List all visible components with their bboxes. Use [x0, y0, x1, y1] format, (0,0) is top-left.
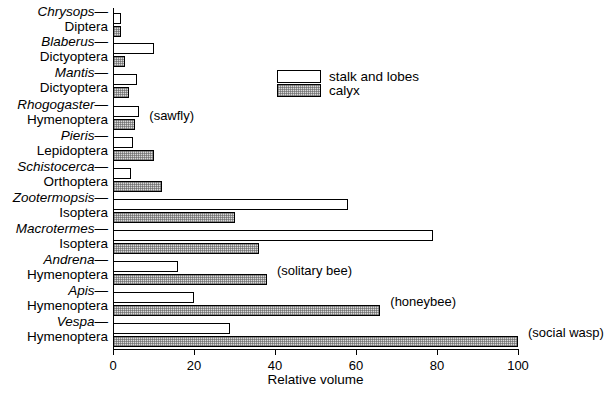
x-axis-tick-label: 80	[430, 358, 444, 373]
category-label: Vespa—Hymenoptera	[0, 314, 108, 344]
bar-stalk	[113, 137, 133, 148]
category-genus: Zootermopsis—	[13, 190, 108, 205]
category-order: Diptera	[0, 19, 108, 34]
bar-calyx	[113, 336, 518, 347]
annotation-label: (solitary bee)	[277, 263, 352, 278]
legend-label-calyx: calyx	[329, 83, 360, 98]
bar-calyx	[113, 243, 259, 254]
bar-calyx	[113, 274, 267, 285]
category-label: Macrotermes—Isoptera	[0, 221, 108, 251]
category-label: Chrysops—Diptera	[0, 4, 108, 34]
x-axis-tick-label: 60	[349, 358, 363, 373]
x-axis-tick-label: 20	[187, 358, 201, 373]
category-order: Lepidoptera	[0, 143, 108, 158]
legend-swatch-calyx-icon	[277, 84, 321, 97]
category-genus: Pieris—	[61, 128, 108, 143]
x-axis-tick	[275, 349, 276, 355]
bar-calyx	[113, 305, 380, 316]
bar-calyx	[113, 87, 129, 98]
bar-stalk	[113, 199, 348, 210]
bar-stalk	[113, 74, 137, 85]
category-order: Hymenoptera	[0, 329, 108, 344]
plot-area: 020406080100	[113, 8, 518, 348]
category-label: Andrena—Hymenoptera	[0, 252, 108, 282]
category-label: Blaberus—Dictyoptera	[0, 34, 108, 64]
bar-calyx	[113, 181, 162, 192]
category-genus: Andrena—	[43, 252, 108, 267]
legend-swatch-stalk-icon	[277, 70, 321, 83]
bar-stalk	[113, 261, 178, 272]
category-order: Dictyoptera	[0, 49, 108, 64]
category-genus: Vespa—	[57, 314, 108, 329]
bar-calyx	[113, 56, 125, 67]
bar-calyx	[113, 212, 235, 223]
x-axis-line	[113, 349, 519, 350]
category-order: Dictyoptera	[0, 80, 108, 95]
category-label: Rhogogaster—Hymenoptera	[0, 97, 108, 127]
x-axis-tick-label: 100	[507, 358, 529, 373]
category-order: Isoptera	[0, 205, 108, 220]
legend-label-stalk: stalk and lobes	[329, 69, 419, 84]
x-axis-tick	[437, 349, 438, 355]
x-axis-tick-label: 0	[109, 358, 116, 373]
bar-stalk	[113, 168, 131, 179]
category-genus: Chrysops—	[37, 4, 108, 19]
x-axis-tick	[113, 349, 114, 355]
bar-calyx	[113, 119, 135, 130]
category-genus: Apis—	[68, 283, 108, 298]
bar-stalk	[113, 323, 230, 334]
category-genus: Rhogogaster—	[17, 97, 108, 112]
category-label: Apis—Hymenoptera	[0, 283, 108, 313]
annotation-label: (sawfly)	[149, 108, 194, 123]
category-order: Isoptera	[0, 236, 108, 251]
category-order: Hymenoptera	[0, 298, 108, 313]
category-label: Schistocerca—Orthoptera	[0, 159, 108, 189]
x-axis-tick-label: 40	[268, 358, 282, 373]
category-genus: Macrotermes—	[16, 221, 108, 236]
annotation-label: (social wasp)	[528, 325, 604, 340]
category-label: Mantis—Dictyoptera	[0, 65, 108, 95]
bar-stalk	[113, 13, 121, 24]
bar-calyx	[113, 26, 121, 37]
category-genus: Schistocerca—	[17, 159, 108, 174]
x-axis-tick	[356, 349, 357, 355]
x-axis-title: Relative volume	[113, 372, 518, 387]
category-genus: Mantis—	[55, 65, 108, 80]
bar-stalk	[113, 292, 194, 303]
category-label: Pieris—Lepidoptera	[0, 128, 108, 158]
category-order: Hymenoptera	[0, 267, 108, 282]
category-label: Zootermopsis—Isoptera	[0, 190, 108, 220]
bar-stalk	[113, 230, 433, 241]
bar-calyx	[113, 150, 154, 161]
x-axis-tick	[194, 349, 195, 355]
category-genus: Blaberus—	[41, 34, 108, 49]
category-order: Orthoptera	[0, 174, 108, 189]
annotation-label: (honeybee)	[390, 294, 456, 309]
x-axis-tick	[518, 349, 519, 355]
bar-stalk	[113, 43, 154, 54]
bar-stalk	[113, 106, 139, 117]
category-order: Hymenoptera	[0, 112, 108, 127]
